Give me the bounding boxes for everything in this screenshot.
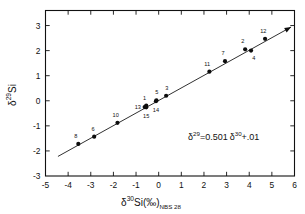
x-tick-label: -1 xyxy=(132,180,140,190)
y-tick-label: 0 xyxy=(36,96,41,106)
y-axis-ticks-left xyxy=(46,26,50,151)
data-point-2 xyxy=(243,47,247,51)
regression-equation-annotation: δ29=0.501δ30+.01 xyxy=(188,130,259,142)
data-point-label-13: 13 xyxy=(135,104,141,110)
y-axis-title: δ29Si xyxy=(5,84,18,106)
data-point-8 xyxy=(76,142,80,146)
data-point-4 xyxy=(249,49,253,53)
data-point-label-1: 1 xyxy=(143,95,146,101)
data-point-6 xyxy=(92,135,96,139)
data-point-label-6: 6 xyxy=(91,126,94,132)
x-tick-label: 6 xyxy=(292,180,297,190)
data-point-label-8: 8 xyxy=(74,133,77,139)
plot-frame xyxy=(46,11,295,177)
data-point-label-2: 2 xyxy=(241,38,244,44)
data-point-15 xyxy=(144,105,148,109)
data-point-label-7: 7 xyxy=(221,50,224,56)
data-point-labels: 12345678101112131415 xyxy=(74,28,266,139)
data-point-label-11: 11 xyxy=(204,61,210,67)
y-tick-label: -1 xyxy=(33,121,41,131)
svg-text:δ29Si: δ29Si xyxy=(5,84,18,106)
y-axis-ticks-right xyxy=(290,26,294,151)
data-point-label-3: 3 xyxy=(165,85,168,91)
regression-line-arrowhead xyxy=(284,27,291,32)
data-point-label-10: 10 xyxy=(113,112,119,118)
equation-operator: =0.501 xyxy=(200,132,228,142)
data-point-label-4: 4 xyxy=(252,55,255,61)
data-point-14 xyxy=(154,99,158,103)
y-tick-label: -2 xyxy=(33,146,41,156)
data-point-12 xyxy=(263,37,267,41)
x-tick-label: 4 xyxy=(247,180,252,190)
x-tick-label: 2 xyxy=(202,180,207,190)
scatter-chart-figure: -5-4-3-2-10123456 -3-2-10123 12345678101… xyxy=(0,0,305,214)
x-axis-title: δ30Si(‰)NBS 28 xyxy=(121,195,181,209)
equation-tail: +.01 xyxy=(242,132,260,142)
x-tick-label: 3 xyxy=(224,180,229,190)
y-axis-tick-labels: -3-2-10123 xyxy=(33,21,41,181)
x-tick-label: -3 xyxy=(87,180,95,190)
y-axis-title-si: Si xyxy=(7,84,18,93)
x-axis-tick-labels: -5-4-3-2-10123456 xyxy=(42,180,297,190)
data-point-label-14: 14 xyxy=(153,107,159,113)
data-point-3 xyxy=(164,94,168,98)
x-axis-ticks-bottom xyxy=(68,172,272,176)
data-point-label-12: 12 xyxy=(260,28,266,34)
data-point-10 xyxy=(115,121,119,125)
svg-text:δ30Si(‰)NBS 28: δ30Si(‰)NBS 28 xyxy=(121,195,181,209)
x-tick-label: 5 xyxy=(270,180,275,190)
axis-frame-rect xyxy=(46,11,295,177)
x-tick-label: -2 xyxy=(110,180,118,190)
data-point-label-15: 15 xyxy=(143,113,149,119)
data-point-label-5: 5 xyxy=(155,89,158,95)
x-tick-label: 1 xyxy=(179,180,184,190)
data-point-7 xyxy=(223,59,227,63)
y-tick-label: -3 xyxy=(33,171,41,181)
x-tick-label: -4 xyxy=(64,180,72,190)
x-axis-ticks-top xyxy=(68,11,272,15)
y-tick-label: 1 xyxy=(36,71,41,81)
y-tick-label: 3 xyxy=(36,21,41,31)
svg-text:δ29=0.501δ30+.01: δ29=0.501δ30+.01 xyxy=(188,130,259,142)
x-axis-title-subscript: NBS 28 xyxy=(160,203,182,210)
data-point-11 xyxy=(207,70,211,74)
y-tick-label: 2 xyxy=(36,46,41,56)
x-tick-label: -5 xyxy=(42,180,50,190)
chart-canvas: -5-4-3-2-10123456 -3-2-10123 12345678101… xyxy=(0,0,305,214)
x-tick-label: 0 xyxy=(156,180,161,190)
x-axis-title-si: Si(‰) xyxy=(134,197,160,208)
